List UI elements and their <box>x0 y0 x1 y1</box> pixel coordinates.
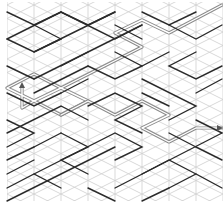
maze-wall <box>34 133 61 147</box>
maze-wall <box>142 188 169 201</box>
maze-wall <box>7 66 34 79</box>
maze-wall <box>169 52 222 79</box>
maze-wall <box>7 147 34 160</box>
maze-wall <box>196 79 222 93</box>
maze-walls <box>7 12 222 201</box>
maze-wall <box>196 147 222 160</box>
maze-wall <box>61 52 88 66</box>
maze-wall <box>34 25 61 39</box>
maze-wall <box>7 160 34 174</box>
maze-canvas <box>0 0 223 207</box>
maze-wall <box>88 188 115 201</box>
solution-path <box>7 5 222 142</box>
